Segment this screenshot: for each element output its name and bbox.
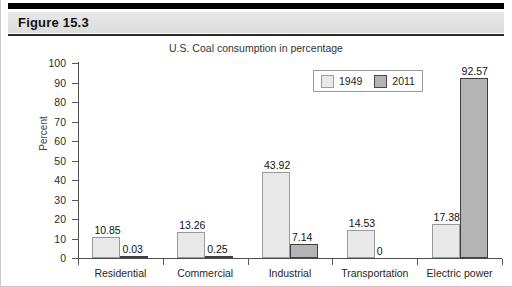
bar-value-label: 0.03 (122, 243, 142, 255)
y-tick-label: 30 (0, 194, 66, 206)
x-tick-mark (78, 259, 79, 265)
bar-value-label: 14.53 (349, 217, 375, 229)
y-tick-label: 80 (0, 96, 66, 108)
y-tick-label: 0 (0, 252, 66, 264)
bar-1949-commercial[interactable] (177, 232, 205, 258)
bar-2011-electric-power[interactable] (460, 78, 488, 259)
bar-2011-industrial[interactable] (290, 244, 318, 258)
bar-2011-commercial[interactable] (205, 256, 233, 258)
bar-1949-transportation[interactable] (347, 230, 375, 258)
bar-value-label: 17.38 (434, 211, 460, 223)
x-category-label-industrial: Industrial (248, 267, 333, 279)
y-tick-label: 20 (0, 213, 66, 225)
x-tick-mark (417, 259, 418, 265)
x-tick-mark (163, 259, 164, 265)
bar-1949-residential[interactable] (92, 237, 120, 258)
x-category-label-commercial: Commercial (163, 267, 248, 279)
x-tick-mark (332, 259, 333, 265)
bar-value-label: 13.26 (179, 219, 205, 231)
chart-title: U.S. Coal consumption in percentage (0, 42, 512, 54)
bar-value-label: 0.25 (207, 243, 227, 255)
plot-area: 10.850.0313.260.2543.927.1414.53017.3892… (78, 63, 502, 258)
bar-value-label: 10.85 (94, 224, 120, 236)
x-category-label-transportation: Transportation (332, 267, 417, 279)
bar-value-label: 92.57 (462, 65, 488, 77)
bar-value-label: 0 (377, 245, 383, 257)
x-tick-mark (502, 259, 503, 265)
bar-value-label: 7.14 (292, 231, 312, 243)
header-top-rule (8, 3, 504, 9)
bar-2011-residential[interactable] (120, 256, 148, 258)
header-bottom-rule (8, 34, 504, 36)
x-category-label-residential: Residential (78, 267, 163, 279)
y-tick-label: 10 (0, 233, 66, 245)
figure-label: Figure 15.3 (18, 14, 89, 32)
x-tick-mark (248, 259, 249, 265)
y-tick-label: 100 (0, 57, 66, 69)
y-tick-label: 60 (0, 135, 66, 147)
y-tick-label: 50 (0, 155, 66, 167)
x-category-label-electric-power: Electric power (417, 267, 502, 279)
y-tick-label: 70 (0, 116, 66, 128)
bar-1949-electric-power[interactable] (432, 224, 460, 258)
bar-value-label: 43.92 (264, 159, 290, 171)
bar-1949-industrial[interactable] (262, 172, 290, 258)
y-tick-label: 40 (0, 174, 66, 186)
y-tick-label: 90 (0, 77, 66, 89)
x-axis-line (78, 258, 502, 259)
figure-container: Figure 15.3 U.S. Coal consumption in per… (0, 0, 512, 287)
